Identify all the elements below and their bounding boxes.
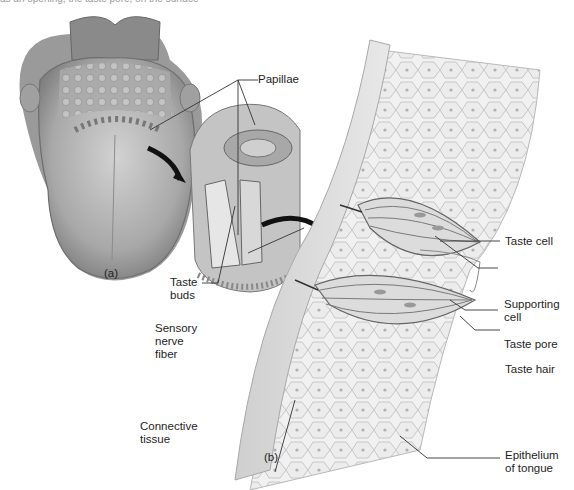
label-taste-buds: Taste buds — [170, 276, 198, 302]
label-papillae: Papillae — [258, 73, 299, 86]
label-connective-tissue: Connective tissue — [140, 420, 198, 446]
label-supporting-cell: Supporting cell — [504, 298, 560, 324]
panel-label-a: (a) — [104, 267, 118, 279]
label-sensory-nerve-fiber: Sensory nerve fiber — [155, 322, 197, 361]
label-taste-pore: Taste pore — [504, 338, 558, 351]
label-taste-hair: Taste hair — [505, 363, 555, 376]
tongue-illustration — [20, 17, 203, 281]
label-taste-cell: Taste cell — [505, 235, 553, 248]
label-epithelium-of-tongue: Epithelium of tongue — [505, 449, 559, 475]
panel-label-b: (b) — [264, 451, 278, 463]
